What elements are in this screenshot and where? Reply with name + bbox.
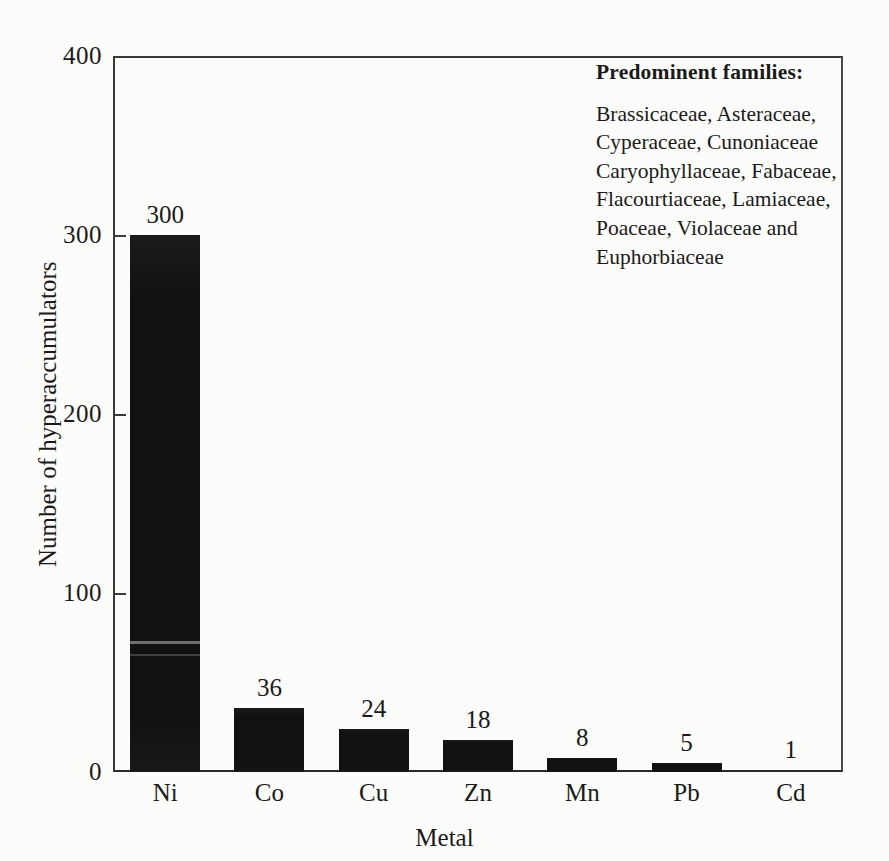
annotation-line: Flacourtiaceae, Lamiaceae, bbox=[596, 185, 846, 214]
x-tick-label-ni: Ni bbox=[115, 780, 215, 805]
y-tick-mark bbox=[113, 414, 126, 416]
x-tick-label-cd: Cd bbox=[741, 780, 841, 805]
x-tick-label-mn: Mn bbox=[532, 780, 632, 805]
y-tick-label: 400 bbox=[40, 43, 102, 68]
bar-cu bbox=[339, 729, 409, 772]
x-tick-label-zn: Zn bbox=[428, 780, 528, 805]
annotation-line: Cyperaceae, Cunoniaceae bbox=[596, 128, 846, 157]
annotation-line: Brassicaceae, Asteraceae, bbox=[596, 100, 846, 129]
annotation-line: Caryophyllaceae, Fabaceae, bbox=[596, 157, 846, 186]
bar-co bbox=[234, 708, 304, 772]
bar-ni bbox=[130, 235, 200, 772]
x-tick-label-co: Co bbox=[219, 780, 319, 805]
y-tick-label: 300 bbox=[40, 222, 102, 247]
y-tick-mark bbox=[113, 593, 126, 595]
bar-value-label-co: 36 bbox=[219, 675, 319, 700]
predominant-families-annotation: Predominent families: Brassicaceae, Aste… bbox=[596, 58, 846, 271]
bar-mn bbox=[547, 758, 617, 772]
annotation-body: Brassicaceae, Asteraceae,Cyperaceae, Cun… bbox=[596, 100, 846, 272]
bar-value-label-cd: 1 bbox=[741, 737, 841, 762]
bar-pb bbox=[652, 763, 722, 772]
x-tick-label-cu: Cu bbox=[324, 780, 424, 805]
x-tick-label-pb: Pb bbox=[637, 780, 737, 805]
bar-value-label-mn: 8 bbox=[532, 725, 632, 750]
bar-value-label-ni: 300 bbox=[115, 202, 215, 227]
scan-streak bbox=[130, 654, 200, 656]
y-tick-label: 0 bbox=[40, 759, 102, 784]
bar-value-label-pb: 5 bbox=[637, 730, 737, 755]
y-tick-label: 200 bbox=[40, 401, 102, 426]
y-tick-label: 100 bbox=[40, 580, 102, 605]
annotation-line: Poaceae, Violaceae and bbox=[596, 214, 846, 243]
scan-streak bbox=[130, 641, 200, 644]
bar-chart-figure: Number of hyperaccumulators 010020030040… bbox=[0, 0, 889, 861]
y-tick-mark bbox=[113, 235, 126, 237]
bar-value-label-cu: 24 bbox=[324, 696, 424, 721]
annotation-title: Predominent families: bbox=[596, 58, 846, 87]
x-axis-title: Metal bbox=[0, 825, 889, 850]
bar-zn bbox=[443, 740, 513, 772]
bar-value-label-zn: 18 bbox=[428, 707, 528, 732]
annotation-line: Euphorbiaceae bbox=[596, 243, 846, 272]
